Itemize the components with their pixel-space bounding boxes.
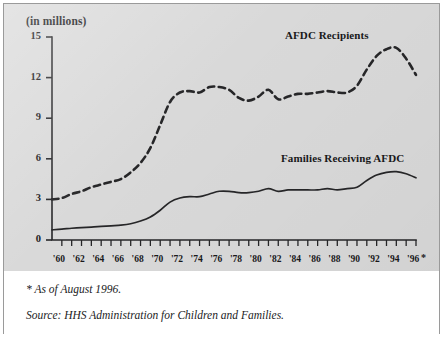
y-tick-label: 12: [19, 71, 41, 82]
y-tick-label: 3: [19, 192, 41, 203]
x-tick-label: '80: [250, 254, 262, 264]
x-tick-label: '72: [171, 254, 183, 264]
x-tick-label: '82: [269, 254, 281, 264]
x-tick-label: '90: [348, 254, 360, 264]
x-tick-label: '68: [132, 254, 144, 264]
x-tick-label: '84: [289, 254, 301, 264]
chart-panel: (in millions) AFDC Recipients Families R…: [4, 4, 439, 271]
x-tick-label: '76: [210, 254, 222, 264]
x-tick-label: '96: [407, 254, 419, 264]
x-tick-label: '60: [53, 254, 65, 264]
footnote-text: * As of August 1996.: [26, 283, 121, 295]
x-tick-label: '94: [387, 254, 399, 264]
y-tick-label: 15: [19, 30, 41, 41]
x-tick-label: '88: [328, 254, 340, 264]
source-text: Source: HHS Administration for Children …: [26, 309, 284, 321]
notes-section: * As of August 1996. Source: HHS Adminis…: [4, 271, 439, 334]
plot-area: [4, 4, 439, 271]
x-tick-label: '64: [92, 254, 104, 264]
x-tick-label: '86: [309, 254, 321, 264]
y-tick-label: 6: [19, 152, 41, 163]
x-tick-label: '74: [191, 254, 203, 264]
x-tick-label: '62: [73, 254, 85, 264]
x-tick-label: '70: [151, 254, 163, 264]
x-tick-label: '92: [368, 254, 380, 264]
afdc-chart-figure: (in millions) AFDC Recipients Families R…: [0, 0, 446, 340]
x-axis-footnote-marker: *: [421, 252, 426, 263]
x-tick-label: '78: [230, 254, 242, 264]
y-tick-label: 9: [19, 111, 41, 122]
y-tick-label: 0: [19, 233, 41, 244]
x-tick-label: '66: [112, 254, 124, 264]
